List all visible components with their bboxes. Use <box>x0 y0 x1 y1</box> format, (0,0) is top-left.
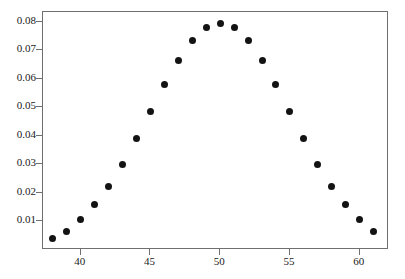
data-point <box>77 216 84 223</box>
plot-area-frame <box>42 11 388 249</box>
data-point <box>245 37 252 44</box>
data-point <box>203 24 210 31</box>
scatter-points-layer <box>43 12 387 248</box>
data-point <box>63 228 70 235</box>
data-point <box>119 161 126 168</box>
data-point <box>133 135 140 142</box>
y-axis-tick-label: 0.03 <box>17 157 36 168</box>
data-point <box>217 20 224 27</box>
y-axis-tick-label: 0.07 <box>17 43 36 54</box>
y-axis-tick-label: 0.06 <box>17 72 36 83</box>
x-axis-tick-label: 50 <box>214 256 225 267</box>
data-point <box>161 81 168 88</box>
data-point <box>91 201 98 208</box>
data-point <box>189 37 196 44</box>
y-axis-tick-labels: 0.010.020.030.040.050.060.070.08 <box>0 0 36 279</box>
data-point <box>370 228 377 235</box>
y-axis-tick-label: 0.04 <box>17 129 36 140</box>
data-point <box>259 57 266 64</box>
data-point <box>300 135 307 142</box>
data-point <box>272 81 279 88</box>
x-axis-tick-label: 60 <box>353 256 364 267</box>
data-point <box>314 161 321 168</box>
x-axis-tick-label: 45 <box>144 256 155 267</box>
y-axis-tick-label: 0.08 <box>17 15 36 26</box>
data-point <box>105 183 112 190</box>
data-point <box>342 201 349 208</box>
data-point <box>147 108 154 115</box>
y-axis-tick-label: 0.01 <box>17 214 36 225</box>
data-point <box>49 235 56 242</box>
x-axis-tick-label: 55 <box>283 256 294 267</box>
y-axis-tick-label: 0.05 <box>17 100 36 111</box>
data-point <box>328 183 335 190</box>
data-point <box>175 57 182 64</box>
x-axis-tick-label: 40 <box>74 256 85 267</box>
chart-figure: 0.010.020.030.040.050.060.070.08 4045505… <box>0 0 405 279</box>
data-point <box>356 216 363 223</box>
data-point <box>231 24 238 31</box>
y-axis-tick-label: 0.02 <box>17 186 36 197</box>
data-point <box>286 108 293 115</box>
